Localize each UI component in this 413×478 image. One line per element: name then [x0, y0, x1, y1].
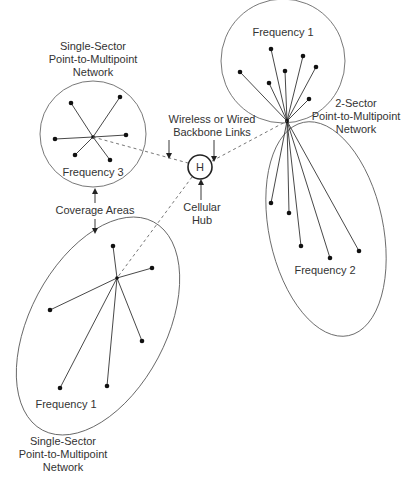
spokes-sector-1 — [240, 49, 316, 121]
base-station-node — [115, 276, 119, 280]
backbone-label-line2: Backbone Links — [173, 126, 251, 138]
sector-2-frequency-label: Frequency 2 — [294, 264, 355, 276]
network-single-sector-bottom: Frequency 1 Single-Sector Point-to-Multi… — [0, 190, 213, 473]
network-title-line3: Network — [73, 66, 114, 78]
hub-label-line2: Hub — [192, 214, 212, 226]
subscriber-nodes — [48, 244, 155, 391]
backbone-links — [93, 121, 287, 278]
backbone-label-line1: Wireless or Wired — [169, 113, 256, 125]
cellular-hub: H Cellular Hub — [183, 155, 221, 226]
hub-symbol: H — [196, 161, 204, 173]
network-title-line3: Network — [43, 461, 84, 473]
backbone-link-top-left — [93, 137, 188, 163]
coverage-area-sector-frequency-2 — [248, 111, 405, 348]
network-title-line2: Point-to-Multipoint — [49, 53, 138, 65]
network-single-sector-top: Single-Sector Point-to-Multipoint Networ… — [40, 40, 146, 187]
backbone-callout: Wireless or Wired Backbone Links — [169, 113, 256, 159]
network-two-sector-right: Frequency 1 Frequency 2 2-Sector Point-t… — [221, 0, 404, 347]
network-title-line1: Single-Sector — [60, 40, 126, 52]
coverage-area-frequency-1 — [0, 190, 213, 462]
coverage-callout: Coverage Areas — [56, 191, 135, 231]
network-title-line2: Point-to-Multipoint — [312, 110, 401, 122]
spokes — [50, 246, 152, 388]
network-title-line2: Point-to-Multipoint — [19, 448, 108, 460]
network-diagram: Single-Sector Point-to-Multipoint Networ… — [0, 0, 413, 478]
network-title-line1: 2-Sector — [335, 97, 377, 109]
network-title-line3: Network — [336, 123, 377, 135]
network-title-line1: Single-Sector — [30, 435, 96, 447]
hub-label-line1: Cellular — [183, 201, 221, 213]
spokes — [55, 97, 126, 160]
frequency-label: Frequency 3 — [62, 166, 123, 178]
coverage-label: Coverage Areas — [56, 204, 135, 216]
frequency-label: Frequency 1 — [35, 398, 96, 410]
sector-1-frequency-label: Frequency 1 — [252, 26, 313, 38]
backbone-link-bottom — [117, 177, 192, 278]
subscriber-nodes — [53, 95, 129, 163]
